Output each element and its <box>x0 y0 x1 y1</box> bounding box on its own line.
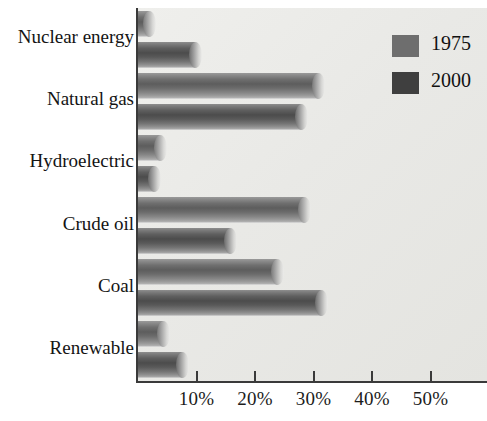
bar-hydroelectric-2000 <box>138 166 161 192</box>
legend-swatch-1975 <box>392 35 419 57</box>
bar-crude-oil-2000 <box>138 228 237 254</box>
bar-hydroelectric-1975 <box>138 135 167 161</box>
bar-natural-gas-2000 <box>138 104 308 130</box>
bar-coal-1975 <box>138 259 284 285</box>
x-tick-label-20: 20% <box>225 388 285 410</box>
x-tick-30 <box>313 371 315 382</box>
category-label-natural-gas: Natural gas <box>0 88 134 110</box>
bar-crude-oil-1975 <box>138 197 311 223</box>
x-tick-50 <box>430 371 432 382</box>
bar-chart: 10%20%30%40%50% Nuclear energyNatural ga… <box>0 0 487 421</box>
x-axis-line <box>136 381 487 383</box>
category-label-nuclear-energy: Nuclear energy <box>0 26 134 48</box>
bar-natural-gas-1975 <box>138 73 325 99</box>
x-tick-label-10: 10% <box>167 388 227 410</box>
bar-end-cap <box>154 135 167 161</box>
x-tick-40 <box>371 371 373 382</box>
category-label-crude-oil: Crude oil <box>0 213 134 235</box>
bar-end-cap <box>295 104 308 130</box>
bar-body <box>138 73 318 99</box>
bar-body <box>138 197 304 223</box>
bar-body <box>138 104 301 130</box>
bar-nuclear-energy-1975 <box>138 11 156 37</box>
legend-label-1975: 1975 <box>431 32 471 55</box>
bar-body <box>138 42 195 68</box>
bar-body <box>138 228 230 254</box>
bar-end-cap <box>315 290 328 316</box>
bar-nuclear-energy-2000 <box>138 42 202 68</box>
bar-body <box>138 290 321 316</box>
category-label-coal: Coal <box>0 275 134 297</box>
category-label-hydroelectric: Hydroelectric <box>0 150 134 172</box>
bar-body <box>138 259 277 285</box>
bar-end-cap <box>148 166 161 192</box>
x-tick-10 <box>196 371 198 382</box>
x-tick-20 <box>254 371 256 382</box>
bar-end-cap <box>189 42 202 68</box>
x-tick-label-40: 40% <box>342 388 402 410</box>
bar-end-cap <box>143 11 156 37</box>
bar-coal-2000 <box>138 290 328 316</box>
bar-end-cap <box>312 73 325 99</box>
legend-label-2000: 2000 <box>431 69 471 92</box>
x-tick-label-30: 30% <box>284 388 344 410</box>
x-tick-label-50: 50% <box>401 388 461 410</box>
bar-end-cap <box>298 197 311 223</box>
bar-renewable-2000 <box>138 352 189 378</box>
bar-renewable-1975 <box>138 321 170 347</box>
legend-swatch-2000 <box>392 72 419 94</box>
category-label-renewable: Renewable <box>0 337 134 359</box>
